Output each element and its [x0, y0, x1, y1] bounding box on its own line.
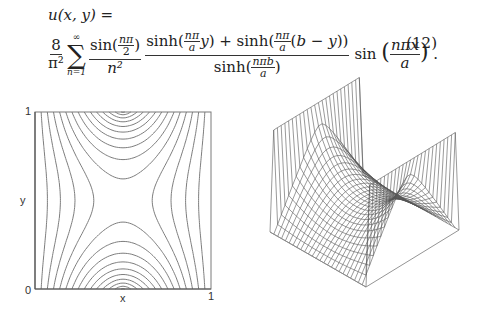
x-tick-1: 1 — [208, 290, 214, 302]
y-tick-1: 1 — [25, 105, 31, 117]
y-axis-label: y — [20, 194, 26, 206]
x-axis-label: x — [120, 292, 126, 304]
figure-canvas — [0, 0, 485, 318]
y-tick-0: 0 — [25, 284, 31, 296]
contour-frame — [35, 112, 211, 289]
contour-lines — [41, 112, 205, 289]
surface-wireframe — [270, 78, 459, 288]
